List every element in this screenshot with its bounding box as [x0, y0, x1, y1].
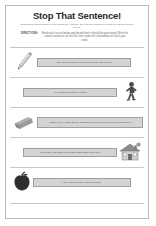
directions-text: Read each run-on below and decide how it…	[41, 32, 139, 43]
footer-divider	[10, 203, 144, 204]
page-title: Stop That Sentence!	[13, 10, 141, 21]
sentence-box[interactable]: Help Jess ran down my street	[23, 88, 117, 97]
directions-label: DIRECTIONS:	[21, 32, 38, 36]
sentence-text: Help Jess ran down my street	[51, 91, 90, 94]
worksheet-footer-area	[6, 197, 148, 219]
directions-block: DIRECTIONS: Read each run-on below and d…	[13, 32, 141, 43]
apple-icon	[11, 170, 33, 194]
pencil-icon	[11, 50, 37, 74]
exercise-rows: Can I borrow one of your pencils mine ha…	[6, 48, 148, 197]
exercise-row: Where is my eraser an an I needed one fo…	[6, 108, 148, 137]
sentence-text: Can I borrow one of your pencils mine ha…	[53, 61, 114, 64]
sentence-box[interactable]: Where is my eraser an an I needed one fo…	[37, 117, 143, 128]
exercise-row: Help Jess ran down my street	[6, 78, 148, 107]
sentence-box[interactable]: My house is the third one on the right i…	[23, 148, 117, 157]
eraser-icon	[11, 110, 37, 134]
exercise-row: Hey I had an apple I do still hungry	[6, 168, 148, 197]
sentence-text: My house is the third one on the right i…	[37, 151, 103, 154]
exercise-row: Can I borrow one of your pencils mine ha…	[6, 48, 148, 77]
sentence-box[interactable]: Hey I had an apple I do still hungry	[33, 178, 131, 187]
exercise-row: My house is the third one on the right i…	[6, 138, 148, 167]
sentence-box[interactable]: Can I borrow one of your pencils mine ha…	[37, 58, 131, 67]
sentence-text: Hey I had an apple I do still hungry	[60, 181, 105, 184]
sentence-text: Where is my eraser an an I needed one fo…	[46, 121, 133, 124]
worksheet-header: Stop That Sentence! Sometimes writers fo…	[6, 6, 148, 45]
running-person-icon	[117, 80, 143, 104]
house-icon	[117, 140, 143, 164]
worksheet-subtitle: Sometimes writers forget to end a senten…	[13, 23, 141, 30]
worksheet-page: Stop That Sentence! Sometimes writers fo…	[5, 5, 149, 219]
